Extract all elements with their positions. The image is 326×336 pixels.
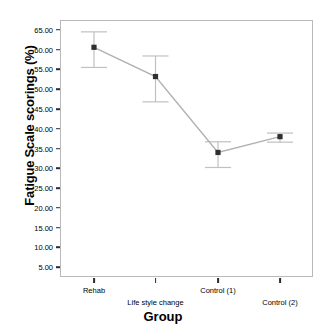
data-point-marker [215, 150, 220, 155]
data-point-markers [91, 45, 282, 155]
data-point-marker [153, 74, 158, 79]
x-axis-title: Group [0, 309, 326, 324]
connector-line [94, 47, 280, 152]
data-point-marker [91, 45, 96, 50]
error-bars-group [81, 32, 293, 168]
data-point-marker [277, 134, 282, 139]
error-bar-chart: Fatigue Scale scorings (%) 5.0010.0015.0… [0, 0, 326, 336]
data-series-layer [0, 0, 326, 336]
